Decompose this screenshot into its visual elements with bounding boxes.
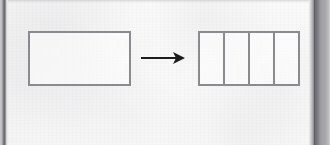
whole-rectangle <box>28 31 131 86</box>
rectangle-part <box>200 33 225 84</box>
partitioned-rectangle <box>198 31 300 86</box>
right-scan-hairline <box>314 0 315 145</box>
rectangle-part <box>225 33 250 84</box>
left-scan-edge <box>0 0 8 145</box>
rectangle-part <box>275 33 298 84</box>
top-scan-shadow <box>0 0 330 3</box>
transformation-arrow <box>140 50 186 66</box>
right-scan-gutter <box>309 0 330 145</box>
arrow-icon <box>140 50 186 66</box>
scanned-page <box>0 0 330 145</box>
math-figure <box>0 0 330 145</box>
rectangle-part <box>250 33 275 84</box>
